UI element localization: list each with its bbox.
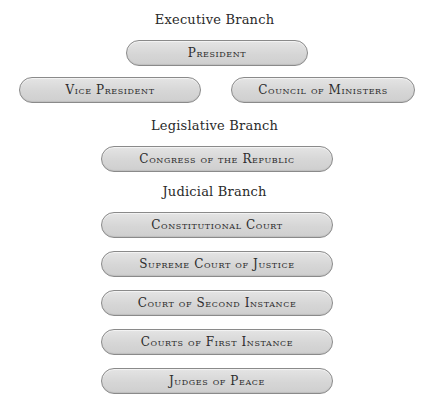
node-label: President xyxy=(188,46,247,60)
node-label: Court of Second Instance xyxy=(138,296,297,310)
legislative-branch-heading: Legislative Branch xyxy=(0,118,429,133)
node-label: Courts of First Instance xyxy=(141,335,293,349)
node-judges-of-peace: Judges of Peace xyxy=(101,368,333,394)
node-label: Congress of the Republic xyxy=(139,152,294,166)
judicial-branch-heading: Judicial Branch xyxy=(0,184,429,199)
node-constitutional-court: Constitutional Court xyxy=(101,212,333,238)
node-supreme-court: Supreme Court of Justice xyxy=(101,251,333,277)
node-courts-first-instance: Courts of First Instance xyxy=(101,329,333,355)
node-council-of-ministers: Council of Ministers xyxy=(231,77,415,103)
node-vice-president: Vice President xyxy=(19,77,201,103)
node-label: Vice President xyxy=(65,83,154,97)
executive-branch-heading: Executive Branch xyxy=(0,12,429,27)
node-president: President xyxy=(126,40,308,66)
node-congress: Congress of the Republic xyxy=(101,146,333,172)
node-court-second-instance: Court of Second Instance xyxy=(101,290,333,316)
node-label: Council of Ministers xyxy=(258,83,388,97)
node-label: Judges of Peace xyxy=(169,374,265,388)
node-label: Supreme Court of Justice xyxy=(139,257,294,271)
node-label: Constitutional Court xyxy=(151,218,282,232)
